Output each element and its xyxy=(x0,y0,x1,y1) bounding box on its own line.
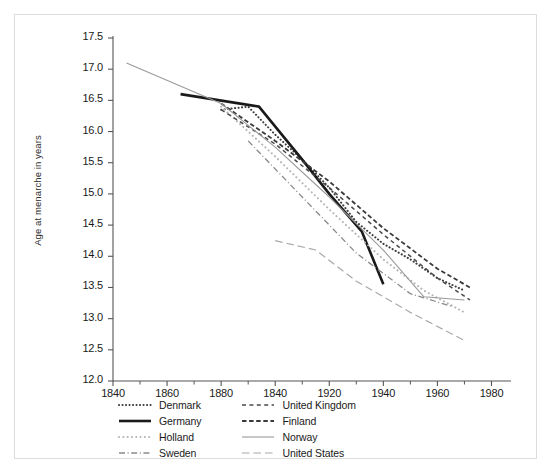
legend-swatch-solid-thin-icon xyxy=(241,431,275,443)
y-tick-label: 13.0 xyxy=(63,311,103,323)
y-tick-label: 14.5 xyxy=(63,217,103,229)
legend-item-finland[interactable]: Finland xyxy=(241,414,355,428)
legend-item-united-states[interactable]: United States xyxy=(241,446,355,460)
y-tick-label: 15.5 xyxy=(63,155,103,167)
legend-swatch-dashed-icon xyxy=(241,399,275,411)
chart-legend: DenmarkGermanyHollandSwedenUnited Kingdo… xyxy=(118,398,478,460)
chart-figure: Age at menarche in years 12.012.513.013.… xyxy=(0,0,552,474)
legend-swatch-solid-thick-icon xyxy=(118,415,152,427)
series-line-germany xyxy=(181,94,384,284)
y-tick-label: 16.0 xyxy=(63,124,103,136)
y-tick-label: 12.5 xyxy=(63,342,103,354)
y-tick-label: 15.0 xyxy=(63,186,103,198)
y-tick-label: 12.0 xyxy=(63,373,103,385)
series-line-sweden xyxy=(248,141,451,306)
legend-column-2: United KingdomFinlandNorwayUnited States xyxy=(241,398,355,460)
legend-swatch-dashdot-icon xyxy=(118,447,152,459)
legend-label: Finland xyxy=(282,415,316,427)
series-line-norway xyxy=(127,63,465,300)
series-line-finland xyxy=(221,103,470,287)
y-tick-label: 14.0 xyxy=(63,248,103,260)
legend-label: Germany xyxy=(159,415,201,427)
legend-swatch-dashed-dense-icon xyxy=(241,415,275,427)
legend-item-germany[interactable]: Germany xyxy=(118,414,201,428)
y-tick-label: 16.5 xyxy=(63,92,103,104)
legend-label: Norway xyxy=(282,431,317,443)
legend-item-united-kingdom[interactable]: United Kingdom xyxy=(241,398,355,412)
series-line-united-kingdom xyxy=(221,110,470,300)
legend-swatch-dotted-icon xyxy=(118,399,152,411)
legend-label: Denmark xyxy=(159,399,201,411)
y-axis-title: Age at menarche in years xyxy=(32,101,43,281)
legend-swatch-dotted-light-icon xyxy=(118,431,152,443)
y-tick-label: 13.5 xyxy=(63,279,103,291)
legend-label: United Kingdom xyxy=(282,399,355,411)
legend-item-denmark[interactable]: Denmark xyxy=(118,398,201,412)
legend-label: United States xyxy=(282,447,344,459)
legend-item-holland[interactable]: Holland xyxy=(118,430,201,444)
legend-item-norway[interactable]: Norway xyxy=(241,430,355,444)
legend-item-sweden[interactable]: Sweden xyxy=(118,446,201,460)
legend-swatch-longdash-icon xyxy=(241,447,275,459)
series-line-united-states xyxy=(275,241,464,341)
legend-label: Holland xyxy=(159,431,194,443)
y-tick-label: 17.0 xyxy=(63,61,103,73)
legend-label: Sweden xyxy=(159,447,196,459)
y-tick-label: 17.5 xyxy=(63,30,103,42)
legend-column-1: DenmarkGermanyHollandSweden xyxy=(118,398,201,460)
